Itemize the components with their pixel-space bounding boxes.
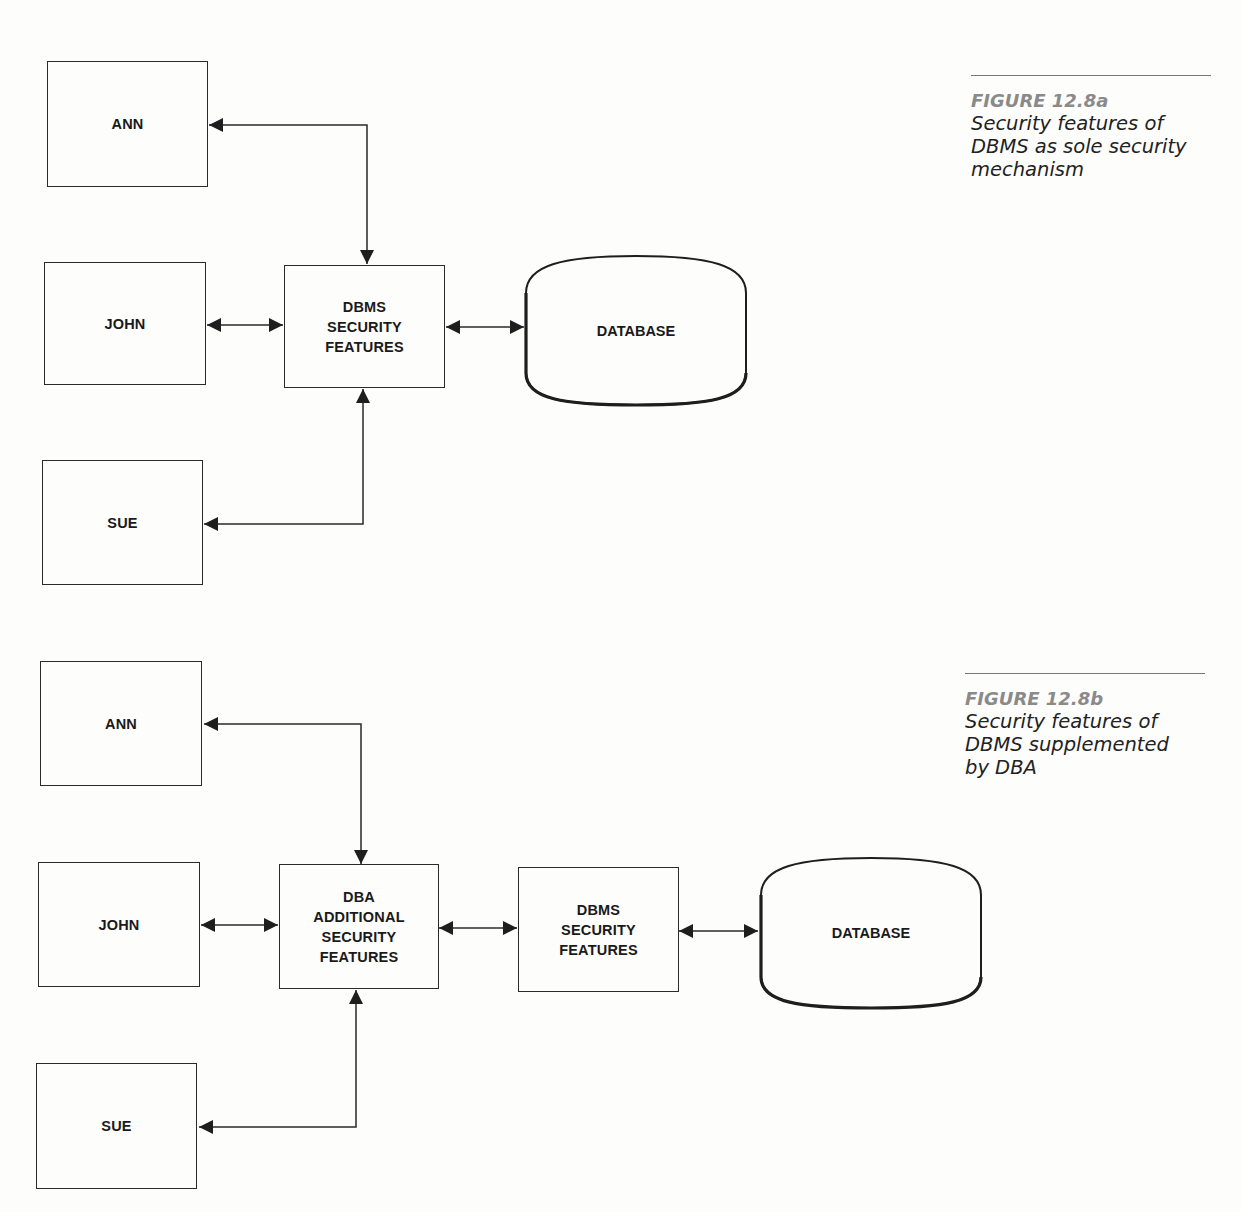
edge-b-sue-dba <box>199 990 356 1127</box>
figure-caption-b: FIGURE 12.8b Security features of DBMS s… <box>965 673 1205 779</box>
figure-number: FIGURE 12.8b <box>965 688 1205 710</box>
box-line: ADDITIONAL <box>313 907 404 927</box>
box-line: DBMS <box>343 297 387 317</box>
user-box-ann: ANN <box>40 661 202 786</box>
user-box-ann: ANN <box>47 61 208 187</box>
user-box-john: JOHN <box>38 862 200 987</box>
box-line: FEATURES <box>320 947 399 967</box>
box-line: SECURITY <box>327 317 402 337</box>
caption-line: mechanism <box>971 158 1211 181</box>
dbms-security-features-box: DBMS SECURITY FEATURES <box>284 265 445 388</box>
edge-a-sue-dbms <box>204 389 363 524</box>
user-label: SUE <box>101 1116 131 1136</box>
user-label: ANN <box>105 714 137 734</box>
database-label: DATABASE <box>597 323 675 339</box>
box-line: FEATURES <box>325 337 404 357</box>
box-line: DBMS <box>577 900 621 920</box>
box-line: DBA <box>343 887 375 907</box>
caption-line: DBMS as sole security <box>971 135 1211 158</box>
database-cylinder: DATABASE <box>523 253 749 408</box>
database-cylinder: DATABASE <box>758 855 984 1011</box>
dbms-security-features-box: DBMS SECURITY FEATURES <box>518 867 679 992</box>
caption-line: Security features of <box>965 710 1205 733</box>
user-label: ANN <box>111 114 143 134</box>
user-box-sue: SUE <box>42 460 203 585</box>
edge-b-ann-dba <box>204 724 361 864</box>
box-line: FEATURES <box>559 940 638 960</box>
caption-rule <box>971 75 1211 76</box>
caption-line: DBMS supplemented <box>965 733 1205 756</box>
user-box-john: JOHN <box>44 262 206 385</box>
user-box-sue: SUE <box>36 1063 197 1189</box>
caption-line: Security features of <box>971 112 1211 135</box>
database-label: DATABASE <box>832 925 910 941</box>
user-label: SUE <box>107 513 137 533</box>
user-label: JOHN <box>104 314 145 334</box>
user-label: JOHN <box>98 915 139 935</box>
figure-number: FIGURE 12.8a <box>971 90 1211 112</box>
caption-line: by DBA <box>965 756 1205 779</box>
figure-caption-a: FIGURE 12.8a Security features of DBMS a… <box>971 75 1211 181</box>
dba-additional-security-features-box: DBA ADDITIONAL SECURITY FEATURES <box>279 864 439 989</box>
caption-rule <box>965 673 1205 674</box>
box-line: SECURITY <box>322 927 397 947</box>
edge-a-ann-dbms <box>209 125 367 264</box>
box-line: SECURITY <box>561 920 636 940</box>
